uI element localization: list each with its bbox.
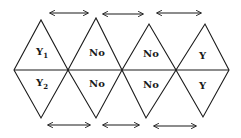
top-label-3: No [143,48,159,59]
rhombus-1 [14,20,68,118]
bottom-label-4: Y [198,80,207,91]
top-label-2: No [89,47,105,58]
bottom-label-3: No [143,79,159,90]
rhombus-3 [122,24,176,118]
top-label-1: Y1 [35,46,48,60]
triangle-strip-diagram: Y1 No No Y Y2 No No Y [0,0,241,138]
bottom-label-1: Y2 [35,77,48,91]
bottom-label-2: No [89,78,105,89]
rhombus-2 [68,18,122,118]
top-label-4: Y [198,50,207,61]
